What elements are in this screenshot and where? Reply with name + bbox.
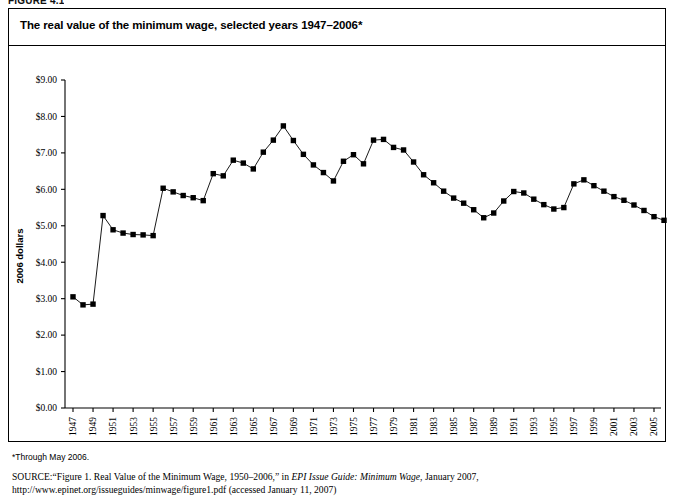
x-axis-tick-label: 1995 [549, 417, 559, 436]
data-point-marker [271, 137, 276, 142]
x-axis-tick-label: 1953 [129, 417, 139, 436]
data-point-marker [231, 157, 236, 162]
x-axis-tick-label: 1947 [68, 417, 78, 436]
x-axis-tick-label: 1977 [369, 417, 379, 436]
data-point-marker [281, 123, 286, 128]
x-axis-tick-label: 1997 [569, 417, 579, 436]
data-point-marker [341, 159, 346, 164]
x-axis-tick-label: 1963 [229, 417, 239, 436]
y-axis-tick-label: $0.00 [36, 403, 58, 413]
data-point-marker [591, 183, 596, 188]
source-label: SOURCE: [12, 471, 53, 482]
data-point-marker [621, 198, 626, 203]
data-point-marker [241, 160, 246, 165]
data-point-marker [361, 161, 366, 166]
data-point-marker [571, 181, 576, 186]
data-point-marker [471, 207, 476, 212]
x-axis-tick-label: 1955 [149, 417, 159, 436]
data-point-marker [321, 170, 326, 175]
data-point-marker [601, 188, 606, 193]
line-chart-svg: $0.00$1.00$2.00$3.00$4.00$5.00$6.00$7.00… [9, 9, 667, 443]
data-point-marker [110, 227, 115, 232]
data-point-marker [481, 215, 486, 220]
x-axis-tick-label: 1981 [409, 417, 419, 436]
y-axis-title: 2006 dollars [14, 229, 25, 284]
data-series [70, 123, 666, 307]
data-point-marker [201, 198, 206, 203]
source-text-part-1: “Figure 1. Real Value of the Minimum Wag… [53, 471, 292, 482]
y-axis-tick-label: $1.00 [36, 367, 58, 377]
data-point-marker [531, 196, 536, 201]
data-point-marker [401, 147, 406, 152]
data-point-marker [120, 230, 125, 235]
data-point-marker [70, 294, 75, 299]
x-axis-tick-label: 1971 [309, 417, 319, 436]
y-axis-tick-label: $5.00 [36, 221, 58, 231]
data-point-marker [561, 205, 566, 210]
data-point-marker [451, 195, 456, 200]
series-line [73, 126, 664, 305]
data-point-marker [631, 202, 636, 207]
data-point-marker [551, 206, 556, 211]
source-publication-title: EPI Issue Guide: Minimum Wage [291, 471, 420, 482]
data-point-marker [160, 186, 165, 191]
x-axis-tick-label: 1967 [269, 417, 279, 436]
source-note: SOURCE:“Figure 1. Real Value of the Mini… [12, 470, 664, 496]
y-axis-tick-label: $2.00 [36, 330, 58, 340]
data-point-marker [501, 198, 506, 203]
data-point-marker [421, 172, 426, 177]
data-point-marker [491, 210, 496, 215]
data-point-marker [90, 301, 95, 306]
data-point-marker [581, 177, 586, 182]
x-axis-tick-label: 1949 [88, 417, 98, 436]
data-point-marker [140, 232, 145, 237]
data-point-marker [611, 194, 616, 199]
x-axis-tick-label: 2003 [629, 417, 639, 436]
data-point-marker [391, 145, 396, 150]
data-point-marker [541, 202, 546, 207]
y-axis-tick-label: $9.00 [36, 75, 58, 85]
data-point-marker [170, 189, 175, 194]
y-axis-tick-label: $7.00 [36, 148, 58, 158]
data-point-marker [180, 193, 185, 198]
x-axis-tick-label: 1975 [349, 417, 359, 436]
data-point-marker [331, 178, 336, 183]
x-axis-tick-label: 1973 [329, 417, 339, 436]
x-axis-tick-label: 1951 [108, 417, 118, 436]
x-axis-tick-label: 1979 [389, 417, 399, 436]
data-point-marker [261, 149, 266, 154]
data-point-marker [641, 208, 646, 213]
data-point-marker [521, 190, 526, 195]
data-point-marker [191, 195, 196, 200]
x-axis-tick-label: 1969 [289, 417, 299, 436]
x-axis-tick-label: 1985 [449, 417, 459, 436]
x-axis: 1947194919511953195519571959196119631965… [65, 408, 661, 436]
data-point-marker [130, 232, 135, 237]
data-point-marker [301, 152, 306, 157]
data-point-marker [311, 162, 316, 167]
data-point-marker [221, 173, 226, 178]
x-axis-tick-label: 2001 [609, 417, 619, 436]
data-point-marker [441, 188, 446, 193]
x-axis-tick-label: 2005 [649, 417, 659, 436]
data-point-marker [351, 152, 356, 157]
data-point-marker [661, 218, 666, 223]
data-point-marker [251, 166, 256, 171]
figure-container: The real value of the minimum wage, sele… [8, 8, 666, 442]
data-point-marker [651, 214, 656, 219]
data-point-marker [431, 180, 436, 185]
x-axis-tick-label: 1993 [529, 417, 539, 436]
data-point-marker [381, 137, 386, 142]
chart-footnote: *Through May 2006. [12, 452, 89, 462]
data-point-marker [411, 159, 416, 164]
y-axis-tick-label: $8.00 [36, 112, 58, 122]
x-axis-tick-label: 1991 [509, 417, 519, 436]
data-point-marker [100, 213, 105, 218]
x-axis-tick-label: 1983 [429, 417, 439, 436]
y-axis-tick-label: $3.00 [36, 294, 58, 304]
x-axis-tick-label: 1989 [489, 417, 499, 436]
y-axis-tick-label: $6.00 [36, 185, 58, 195]
data-point-marker [150, 233, 155, 238]
x-axis-tick-label: 1959 [189, 417, 199, 436]
plot-area: $0.00$1.00$2.00$3.00$4.00$5.00$6.00$7.00… [9, 9, 667, 443]
